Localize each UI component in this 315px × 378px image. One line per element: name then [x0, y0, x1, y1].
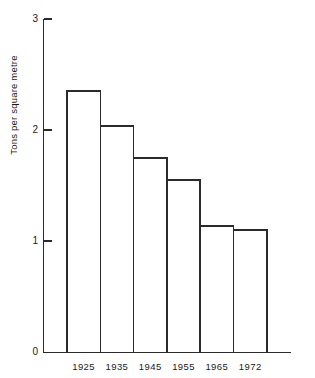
x-tick-label-1925: 1925: [72, 361, 95, 372]
bar-1955: [167, 180, 200, 353]
chart-canvas: 3 2 1 0 Tons per square metre 1925 1935 …: [0, 0, 315, 378]
y-tick-label-1: 1: [32, 235, 38, 246]
bar-1972: [234, 230, 268, 353]
y-tick-label-0: 0: [32, 346, 38, 357]
x-tick-label-1972: 1972: [239, 361, 262, 372]
bar-1935: [100, 126, 133, 353]
x-tick-label-1955: 1955: [172, 361, 195, 372]
x-tick-label-1945: 1945: [139, 361, 162, 372]
bar-1965: [200, 226, 233, 353]
bar-chart-figure: 3 2 1 0 Tons per square metre 1925 1935 …: [0, 0, 315, 378]
x-tick-label-1935: 1935: [106, 361, 129, 372]
y-tick-label-2: 2: [32, 124, 38, 135]
x-tick-label-1965: 1965: [205, 361, 228, 372]
bar-1945: [134, 158, 167, 353]
bar-1925: [67, 91, 100, 353]
y-tick-label-3: 3: [32, 13, 38, 24]
y-axis-title: Tons per square metre: [8, 55, 19, 154]
